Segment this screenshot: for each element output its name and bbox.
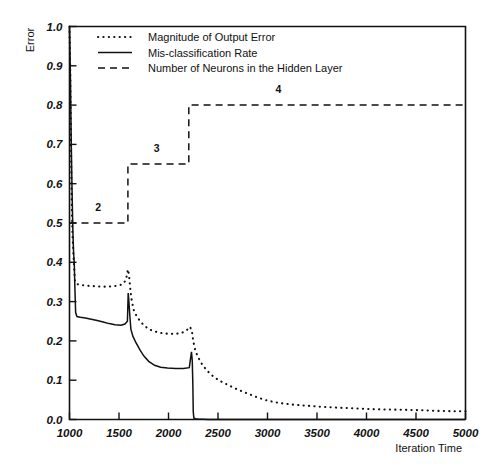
y-tick-label: 0.0 [47,414,64,426]
legend-label: Magnitude of Output Error [148,31,276,43]
step-annotation-label: 3 [154,142,160,154]
y-tick-label: 0.4 [47,256,64,268]
y-tick-label: 0.1 [47,374,63,386]
chart-axes: 0.00.10.20.30.40.50.60.70.80.91.01000150… [47,21,479,439]
x-tick-label: 2500 [204,427,231,439]
x-axis-label: Iteration Time [395,442,462,454]
series-line-0 [70,27,466,412]
x-tick-label: 3500 [304,427,330,439]
y-tick-label: 0.2 [47,335,64,347]
chart-figure: Magnitude of Output ErrorMis-classificat… [0,0,500,469]
x-tick-label: 4500 [402,427,429,439]
y-tick-label: 0.6 [47,178,64,190]
y-axis-label: Error [24,27,36,52]
x-tick-label: 1500 [106,427,132,439]
y-tick-label: 0.7 [47,138,64,150]
series-line-2 [70,105,466,223]
x-tick-label: 1000 [57,427,83,439]
chart-series-group [70,27,466,420]
y-tick-label: 1.0 [47,21,64,33]
series-line-1 [70,27,466,420]
y-tick-label: 0.3 [47,296,64,308]
step-annotation-label: 4 [275,83,281,95]
chart-legend: Magnitude of Output ErrorMis-classificat… [98,31,343,74]
legend-label: Number of Neurons in the Hidden Layer [148,62,343,74]
x-tick-label: 3000 [255,427,281,439]
y-tick-label: 0.8 [47,99,64,111]
x-tick-label: 5000 [453,427,479,439]
x-tick-label: 2000 [155,427,182,439]
y-tick-label: 0.5 [47,217,64,229]
y-tick-label: 0.9 [47,60,64,72]
legend-label: Mis-classification Rate [148,47,257,59]
step-annotation-label: 2 [95,201,101,213]
error-vs-iteration-chart: Magnitude of Output ErrorMis-classificat… [0,0,500,469]
x-tick-label: 4000 [353,427,380,439]
